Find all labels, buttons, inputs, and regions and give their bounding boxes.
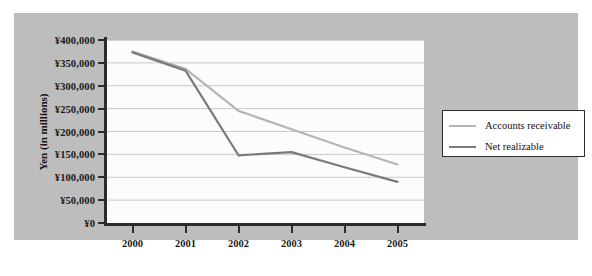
series-lines — [133, 51, 398, 181]
y-tick-label: ¥300,000 — [55, 80, 95, 91]
x-tick-label: 2004 — [334, 238, 355, 249]
y-tick-mark — [98, 222, 105, 224]
x-tick-label: 2001 — [175, 238, 196, 249]
y-tick-mark — [98, 199, 105, 201]
y-axis-title: Yen (in millions) — [34, 40, 50, 223]
y-tick-mark — [98, 85, 105, 87]
y-tick-mark — [98, 62, 105, 64]
y-tick-mark — [98, 131, 105, 133]
y-tick-mark — [98, 108, 105, 110]
plot-region: ¥400,000¥350,000¥300,000¥250,000¥200,000… — [106, 40, 424, 223]
y-tick-label: ¥50,000 — [60, 195, 95, 206]
y-tick-label: ¥0 — [84, 218, 95, 229]
chart-legend: Accounts receivableNet realizable — [442, 110, 585, 157]
x-tick-label: 2003 — [281, 238, 302, 249]
legend-item: Accounts receivable — [449, 117, 584, 134]
y-tick-mark — [98, 176, 105, 178]
y-tick-mark — [98, 39, 105, 41]
y-tick-label: ¥100,000 — [55, 172, 95, 183]
y-tick-label: ¥250,000 — [55, 103, 95, 114]
y-tick-label: ¥200,000 — [55, 126, 95, 137]
y-axis-tick-labels: ¥400,000¥350,000¥300,000¥250,000¥200,000… — [106, 40, 107, 223]
x-tick-label: 2002 — [228, 238, 249, 249]
chart-figure: Yen (in millions) ¥400,000¥350,000¥300,0… — [0, 0, 592, 276]
legend-line-swatch — [449, 146, 476, 148]
legend-item: Net realizable — [449, 138, 584, 155]
x-tick-mark — [132, 226, 134, 233]
legend-label: Net realizable — [485, 141, 544, 152]
x-tick-mark — [397, 226, 399, 233]
y-tick-label: ¥150,000 — [55, 149, 95, 160]
series-line — [133, 51, 398, 164]
y-axis-title-label: Yen (in millions) — [36, 93, 48, 170]
series-line — [133, 52, 398, 181]
x-tick-mark — [344, 226, 346, 233]
x-tick-label: 2000 — [122, 238, 143, 249]
y-tick-label: ¥350,000 — [55, 57, 95, 68]
legend-line-swatch — [449, 125, 476, 127]
x-axis-line — [104, 223, 426, 226]
x-tick-mark — [238, 226, 240, 233]
x-tick-mark — [291, 226, 293, 233]
y-tick-label: ¥400,000 — [55, 35, 95, 46]
chart-panel: Yen (in millions) ¥400,000¥350,000¥300,0… — [14, 13, 578, 240]
legend-label: Accounts receivable — [485, 120, 570, 131]
x-tick-mark — [185, 226, 187, 233]
y-tick-mark — [98, 153, 105, 155]
x-tick-label: 2005 — [387, 238, 408, 249]
plot-canvas — [106, 40, 424, 223]
